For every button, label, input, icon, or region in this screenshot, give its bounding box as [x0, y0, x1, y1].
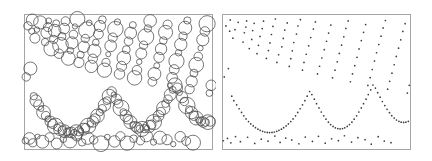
point-mark-dot — [323, 115, 325, 117]
point-mark-dot — [317, 73, 319, 75]
point-mark-dot — [275, 18, 277, 20]
point-mark-dot — [345, 28, 347, 30]
point-mark-dot — [282, 38, 284, 40]
point-mark-dot — [272, 26, 274, 28]
point-mark-dot — [382, 27, 384, 29]
point-mark-dot — [306, 95, 308, 97]
point-mark-circle — [74, 57, 84, 67]
point-mark-dot — [243, 115, 245, 117]
point-mark-dot — [360, 40, 362, 42]
point-mark-dot — [247, 136, 249, 138]
point-mark-dot — [251, 39, 253, 41]
point-mark-dot — [304, 136, 306, 138]
point-mark-dot — [297, 112, 299, 114]
point-mark-dot — [400, 39, 402, 41]
point-mark-circle — [78, 139, 85, 146]
point-mark-circle — [120, 136, 134, 150]
point-mark-dot — [290, 58, 292, 60]
point-mark-dot — [320, 111, 322, 113]
point-mark-dot — [259, 36, 261, 38]
point-mark-dot — [395, 56, 397, 58]
point-mark-dot — [296, 33, 298, 35]
point-mark-dot — [298, 143, 300, 145]
point-mark-circle — [30, 93, 37, 100]
point-mark-dot — [407, 120, 409, 122]
point-mark-dot — [403, 122, 405, 124]
point-mark-dot — [356, 115, 358, 117]
point-mark-dot — [335, 127, 337, 129]
point-mark-circle — [44, 41, 59, 56]
point-mark-dot — [387, 88, 389, 90]
point-mark-dot — [260, 138, 262, 140]
point-mark-dot — [379, 96, 381, 98]
point-mark-dot — [288, 123, 290, 125]
point-mark-dot — [344, 127, 346, 129]
point-mark-dot — [393, 117, 395, 119]
point-mark-dot — [341, 44, 343, 46]
point-mark-dot — [269, 132, 271, 134]
point-mark-dot — [332, 77, 334, 79]
point-mark-dot — [268, 50, 270, 52]
point-mark-dot — [315, 21, 317, 23]
point-mark-dot — [337, 128, 339, 130]
point-mark-dot — [336, 61, 338, 63]
point-mark-dot — [400, 121, 402, 123]
point-mark-dot — [312, 141, 314, 143]
point-mark-dot — [256, 53, 258, 55]
point-mark-circle — [199, 16, 215, 32]
point-mark-dot — [332, 126, 334, 128]
point-mark-dot — [245, 118, 247, 120]
point-mark-dot — [346, 126, 348, 128]
point-mark-dot — [402, 31, 404, 33]
point-mark-circle — [114, 69, 124, 79]
point-mark-dot — [225, 25, 227, 27]
point-mark-circle — [175, 38, 187, 50]
point-mark-dot — [308, 45, 310, 47]
point-mark-circle — [171, 142, 176, 147]
point-mark-dot — [311, 94, 313, 96]
point-mark-dot — [378, 44, 380, 46]
point-mark-dot — [365, 98, 367, 100]
point-mark-dot — [334, 69, 336, 71]
point-mark-dot — [328, 32, 330, 34]
point-mark-dot — [231, 95, 233, 97]
point-mark-dot — [363, 103, 365, 105]
left-panel-circles — [0, 0, 216, 161]
point-mark-dot — [408, 84, 410, 86]
point-mark-dot — [398, 47, 400, 49]
point-mark-dot — [305, 53, 307, 55]
point-mark-dot — [244, 32, 246, 34]
point-mark-dot — [351, 121, 353, 123]
point-mark-circle — [175, 131, 185, 141]
point-mark-dot — [369, 77, 371, 79]
point-mark-circle — [36, 135, 49, 148]
point-mark-dot — [374, 60, 376, 62]
point-mark-circle — [122, 46, 130, 54]
point-mark-dot — [237, 22, 239, 24]
point-mark-dot — [354, 65, 356, 67]
point-mark-dot — [330, 124, 332, 126]
point-mark-dot — [398, 120, 400, 122]
point-mark-circle — [148, 77, 157, 86]
point-mark-dot — [389, 112, 391, 114]
point-mark-dot — [363, 32, 365, 34]
point-mark-dot — [352, 73, 354, 75]
point-mark-dot — [266, 58, 268, 60]
point-mark-dot — [238, 108, 240, 110]
point-mark-dot — [344, 135, 346, 137]
point-mark-dot — [232, 37, 234, 39]
point-mark-dot — [390, 142, 392, 144]
point-mark-dot — [262, 130, 264, 132]
point-mark-dot — [292, 118, 294, 120]
left-panel-marks-layer — [22, 12, 216, 152]
point-mark-dot — [360, 107, 362, 109]
point-mark-circle — [159, 37, 167, 45]
point-mark-dot — [309, 91, 311, 93]
point-mark-circle — [106, 52, 111, 57]
point-mark-dot — [325, 118, 327, 120]
point-mark-dot — [304, 100, 306, 102]
point-mark-dot — [331, 138, 333, 140]
point-mark-dot — [323, 49, 325, 51]
point-mark-dot — [365, 24, 367, 26]
point-mark-dot — [342, 128, 344, 130]
